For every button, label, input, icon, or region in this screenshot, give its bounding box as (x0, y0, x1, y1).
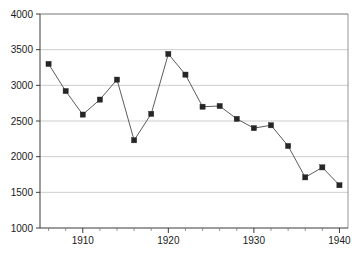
x-tick-labels: 1910192019301940 (72, 235, 351, 246)
data-point-1938 (320, 165, 325, 170)
y-tick-label-4000: 4000 (11, 9, 34, 20)
y-tick-labels: 1000150020002500300035004000 (11, 9, 34, 234)
x-axis (40, 228, 348, 233)
data-point-1906 (46, 61, 51, 66)
data-point-1910 (80, 112, 85, 117)
x-tick-label-1940: 1940 (328, 235, 351, 246)
x-tick-label-1920: 1920 (157, 235, 180, 246)
data-point-1920 (166, 51, 171, 56)
line-chart: 1000150020002500300035004000 19101920193… (0, 0, 358, 253)
data-point-1936 (303, 175, 308, 180)
x-tick-label-1930: 1930 (243, 235, 266, 246)
data-point-1918 (149, 111, 154, 116)
data-point-1924 (200, 104, 205, 109)
data-point-1940 (337, 183, 342, 188)
data-point-1930 (251, 126, 256, 131)
data-point-1922 (183, 72, 188, 77)
y-tick-label-1500: 1500 (11, 187, 34, 198)
y-tick-label-3000: 3000 (11, 80, 34, 91)
y-tick-label-3500: 3500 (11, 44, 34, 55)
chart-container: 1000150020002500300035004000 19101920193… (0, 0, 358, 253)
gridlines-group (40, 14, 348, 192)
data-point-1914 (114, 77, 119, 82)
x-tick-label-1910: 1910 (72, 235, 95, 246)
data-point-1908 (63, 88, 68, 93)
data-markers (46, 51, 342, 187)
data-series-line (49, 54, 340, 185)
data-point-1926 (217, 103, 222, 108)
y-tick-label-2000: 2000 (11, 151, 34, 162)
y-tick-label-2500: 2500 (11, 116, 34, 127)
data-point-1934 (286, 143, 291, 148)
series-polyline (49, 54, 340, 185)
y-tick-label-1000: 1000 (11, 223, 34, 234)
data-point-1912 (97, 97, 102, 102)
data-point-1932 (268, 123, 273, 128)
data-point-1928 (234, 116, 239, 121)
y-axis (36, 14, 40, 228)
data-point-1916 (132, 138, 137, 143)
